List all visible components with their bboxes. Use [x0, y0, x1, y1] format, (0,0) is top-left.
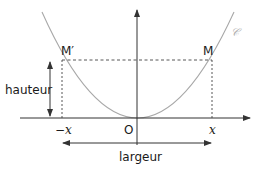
- origin-label: O: [124, 124, 133, 136]
- x-positive-label: x: [209, 124, 216, 136]
- width-label: largeur: [119, 151, 162, 163]
- parabola-curve: [42, 12, 234, 118]
- curve-label: 𝒞: [231, 27, 239, 38]
- point-m-prime-label: M′: [61, 45, 74, 57]
- point-m-label: M: [203, 45, 213, 57]
- height-label: hauteur: [5, 84, 52, 96]
- x-negative-label: −x: [55, 124, 72, 136]
